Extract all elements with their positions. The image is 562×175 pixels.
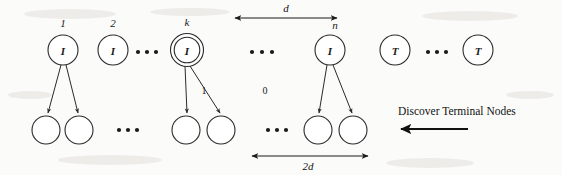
node-label: I — [327, 45, 333, 57]
ellipsis-dots — [117, 128, 139, 132]
discover-terminal-nodes-annotation: Discover Terminal Nodes — [398, 105, 516, 129]
branch-n1-right — [66, 65, 78, 113]
branch-n1-left — [48, 65, 61, 113]
node-internal-1[interactable]: I 1 — [48, 17, 78, 65]
node-label: I — [60, 45, 66, 57]
leaf-nodes — [32, 116, 367, 144]
node-index-label: k — [185, 16, 191, 28]
edge-labels: 1 0 — [202, 85, 268, 96]
ellipsis-bottom-row — [117, 128, 288, 132]
node-internal-n[interactable]: I n — [315, 19, 345, 65]
node-index-label: 2 — [110, 17, 116, 29]
measure-d-label: d — [283, 2, 289, 14]
ellipsis-dots — [136, 50, 158, 54]
diagram-canvas: I 1 I 2 I k I n T — [0, 0, 562, 175]
node-internal-k[interactable]: I k — [171, 16, 204, 67]
tree-branches — [48, 65, 352, 113]
ellipsis-dots — [250, 50, 274, 54]
leaf-node[interactable] — [304, 116, 332, 144]
branch-nk-left — [185, 66, 187, 113]
internal-nodes: I 1 I 2 I k I n — [48, 16, 345, 67]
diagram-svg: I 1 I 2 I k I n T — [0, 0, 562, 175]
edge-label-zero: 0 — [263, 85, 268, 96]
node-label: I — [184, 45, 190, 57]
node-label: I — [110, 45, 116, 57]
leaf-node[interactable] — [339, 116, 367, 144]
edge-label-one: 1 — [202, 85, 207, 96]
measure-d: d — [235, 2, 337, 18]
ellipsis-dots — [426, 50, 448, 54]
leaf-node[interactable] — [32, 116, 60, 144]
measure-2d: 2d — [252, 156, 368, 172]
paper-texture — [8, 8, 554, 168]
annotation-caption: Discover Terminal Nodes — [398, 105, 516, 117]
measure-2d-label: 2d — [303, 160, 315, 172]
branch-nn-right — [333, 65, 352, 113]
ellipsis-dots — [266, 128, 288, 132]
node-internal-2[interactable]: I 2 — [98, 17, 128, 65]
node-index-label: n — [332, 19, 338, 31]
branch-nn-left — [319, 65, 327, 113]
node-index-label: 1 — [60, 17, 66, 29]
node-terminal-1[interactable]: T — [380, 35, 410, 65]
leaf-node[interactable] — [207, 116, 235, 144]
leaf-node[interactable] — [172, 116, 200, 144]
node-terminal-2[interactable]: T — [463, 35, 493, 65]
leaf-node[interactable] — [65, 116, 93, 144]
